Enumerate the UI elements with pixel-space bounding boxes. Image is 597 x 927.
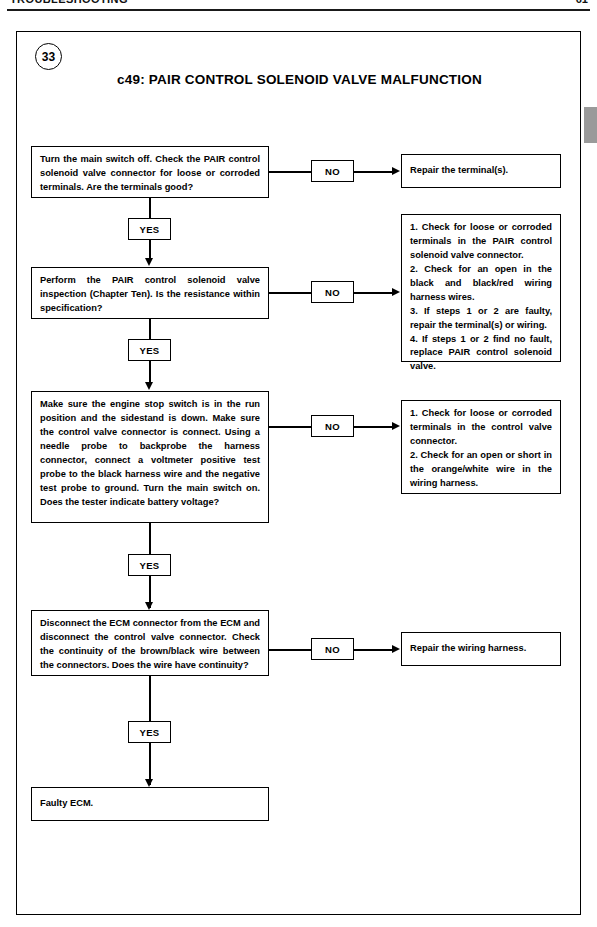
arrowhead-yes1 — [145, 258, 153, 266]
branch-label-no-1: NO — [311, 160, 354, 182]
page-number: 61 — [576, 0, 588, 5]
branch-label-yes-3: YES — [128, 554, 171, 576]
result-2-item-2: 2. Check for an open in the black and bl… — [410, 263, 552, 305]
result-box-2: 1. Check for loose or corroded terminals… — [401, 214, 561, 362]
page-running-header: TROUBLESHOOTING 61 — [0, 0, 597, 14]
flowchart-frame: 33 c49: PAIR CONTROL SOLENOID VALVE MALF… — [16, 31, 581, 915]
result-2-item-1: 1. Check for loose or corroded terminals… — [410, 221, 552, 263]
connector-q1-yes-upper — [149, 198, 151, 218]
connector-no1-result — [354, 171, 396, 173]
question-2-text: Perform the PAIR control solenoid valve … — [40, 274, 260, 316]
connector-q2-yes-upper — [149, 319, 151, 339]
arrowhead-yes2 — [145, 382, 153, 390]
result-4-text: Repair the wiring harness. — [410, 642, 526, 656]
connector-q2-no — [269, 292, 311, 294]
branch-label-yes-1: YES — [128, 218, 171, 240]
flowchart-title: c49: PAIR CONTROL SOLENOID VALVE MALFUNC… — [17, 72, 582, 87]
arrowhead-no4 — [392, 645, 400, 653]
result-2-item-4: 4. If steps 1 or 2 find no fault, replac… — [410, 333, 552, 375]
question-1-text: Turn the main switch off. Check the PAIR… — [40, 153, 260, 195]
result-3-item-2: 2. Check for an open or short in the ora… — [410, 449, 552, 491]
connector-no4-result — [354, 649, 396, 651]
branch-label-yes-4: YES — [128, 721, 171, 743]
connector-q3-yes-upper — [149, 523, 151, 554]
question-box-3: Make sure the engine stop switch is in t… — [31, 391, 269, 523]
connector-q4-no — [269, 649, 311, 651]
connector-q1-no — [269, 171, 311, 173]
final-result-box: Faulty ECM. — [31, 787, 269, 821]
connector-q3-no — [269, 426, 311, 428]
edge-thumb-tab — [584, 107, 597, 143]
result-1-text: Repair the terminal(s). — [410, 164, 508, 178]
arrowhead-no2 — [392, 288, 400, 296]
branch-label-no-2: NO — [311, 281, 354, 303]
branch-label-no-3: NO — [311, 415, 354, 437]
result-box-1: Repair the terminal(s). — [401, 154, 561, 188]
arrowhead-no3 — [392, 422, 400, 430]
question-4-text: Disconnect the ECM connector from the EC… — [40, 617, 260, 673]
connector-no2-result — [354, 292, 396, 294]
connector-q4-yes-upper — [149, 676, 151, 721]
question-3-text: Make sure the engine stop switch is in t… — [40, 398, 260, 510]
question-box-2: Perform the PAIR control solenoid valve … — [31, 267, 269, 319]
result-2-item-3: 3. If steps 1 or 2 are faulty, repair th… — [410, 305, 552, 333]
branch-label-no-4: NO — [311, 638, 354, 660]
step-number-badge: 33 — [35, 43, 62, 70]
arrowhead-yes4 — [145, 779, 153, 787]
arrowhead-yes3 — [145, 602, 153, 610]
branch-label-yes-2: YES — [128, 339, 171, 361]
connector-no3-result — [354, 426, 396, 428]
question-box-1: Turn the main switch off. Check the PAIR… — [31, 146, 269, 198]
result-box-4: Repair the wiring harness. — [401, 632, 561, 666]
question-box-4: Disconnect the ECM connector from the EC… — [31, 610, 269, 676]
result-3-item-1: 1. Check for loose or corroded terminals… — [410, 407, 552, 449]
final-result-text: Faulty ECM. — [40, 797, 93, 811]
header-rule — [7, 9, 590, 11]
arrowhead-no1 — [392, 167, 400, 175]
header-title: TROUBLESHOOTING — [10, 0, 128, 5]
result-box-3: 1. Check for loose or corroded terminals… — [401, 400, 561, 494]
